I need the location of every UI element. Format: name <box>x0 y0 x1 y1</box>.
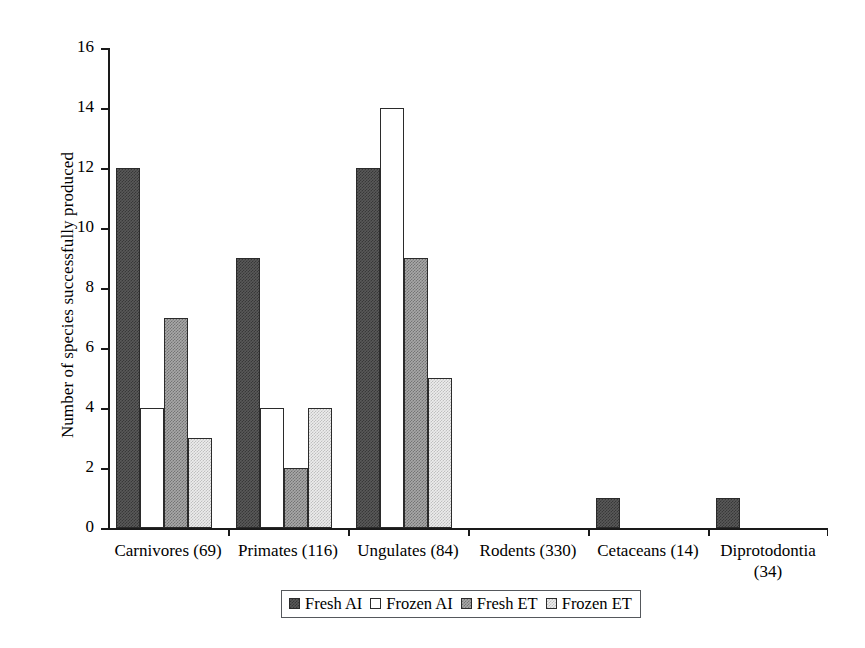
y-axis-tick-label: 2 <box>86 457 95 477</box>
y-axis-tick-label: 14 <box>77 97 94 117</box>
x-axis-category-label: Ungulates (84) <box>348 540 468 561</box>
y-axis-tick: 10 <box>101 228 108 230</box>
x-axis-category-label: Carnivores (69) <box>108 540 228 561</box>
y-axis-tick: 6 <box>101 348 108 350</box>
legend-entry: Fresh ET <box>454 594 539 613</box>
bar <box>116 168 140 528</box>
legend-swatch-icon <box>546 598 557 609</box>
bar <box>188 438 212 528</box>
legend-label: Frozen ET <box>562 594 633 613</box>
x-axis-category-label: Cetaceans (14) <box>588 540 708 561</box>
bar <box>164 318 188 528</box>
legend-label: Fresh ET <box>477 594 539 613</box>
y-axis-line <box>108 48 110 529</box>
x-axis-tick <box>708 528 710 536</box>
y-axis-tick-label: 0 <box>86 517 95 537</box>
bar <box>236 258 260 528</box>
y-axis-tick-label: 4 <box>86 397 95 417</box>
bar <box>260 408 284 528</box>
bar <box>716 498 740 528</box>
legend-swatch-icon <box>370 598 381 609</box>
bar <box>596 498 620 528</box>
chart-legend: Fresh AIFrozen AIFresh ETFrozen ET <box>281 590 641 618</box>
legend-swatch-icon <box>289 598 300 609</box>
x-axis-tick <box>348 528 350 536</box>
legend-label: Fresh AI <box>305 594 363 613</box>
bar <box>380 108 404 528</box>
bar-chart: Number of species successfully produced … <box>0 0 865 648</box>
y-axis-tick-label: 6 <box>86 337 95 357</box>
bar <box>140 408 164 528</box>
legend-swatch-icon <box>461 598 472 609</box>
x-axis-category-label: Diprotodontia (34) <box>708 540 828 582</box>
x-axis-category-label: Primates (116) <box>228 540 348 561</box>
y-axis-tick: 16 <box>101 48 108 50</box>
x-axis-tick <box>468 528 470 536</box>
legend-entry: Frozen ET <box>539 594 633 613</box>
y-axis-tick: 8 <box>101 288 108 290</box>
x-axis-tick <box>588 528 590 536</box>
y-axis-tick-label: 10 <box>77 217 94 237</box>
x-axis-tick <box>228 528 230 536</box>
y-axis-tick: 14 <box>101 108 108 110</box>
bar <box>308 408 332 528</box>
x-axis-tick <box>827 528 829 536</box>
y-axis-tick-label: 16 <box>77 37 94 57</box>
y-axis-tick-label: 12 <box>77 157 94 177</box>
legend-entry: Fresh AI <box>289 594 363 613</box>
x-axis-category-label: Rodents (330) <box>468 540 588 561</box>
y-axis-tick: 4 <box>101 408 108 410</box>
y-axis-tick: 0 <box>101 528 108 530</box>
legend-entry: Frozen AI <box>363 594 453 613</box>
legend-label: Frozen AI <box>386 594 453 613</box>
y-axis-tick-label: 8 <box>86 277 95 297</box>
y-axis-tick: 12 <box>101 168 108 170</box>
y-axis-tick: 2 <box>101 468 108 470</box>
bar <box>284 468 308 528</box>
plot-area: 0246810121416 <box>108 48 828 528</box>
y-axis-title: Number of species successfully produced <box>58 85 78 505</box>
bar <box>356 168 380 528</box>
bar <box>428 378 452 528</box>
bar <box>404 258 428 528</box>
